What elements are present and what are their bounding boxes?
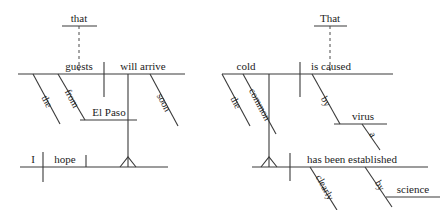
right-word-science: science — [397, 183, 429, 195]
left-word-el-paso: El Paso — [92, 106, 126, 118]
left-word-soon: soon — [155, 91, 174, 113]
right-diagram-group: That cold is caused the common by virus … — [222, 12, 440, 210]
right-word-clearly: clearly — [314, 173, 336, 202]
left-word-guests: guests — [65, 60, 93, 72]
left-word-from: from — [63, 87, 82, 110]
right-word-by-agent: by — [319, 94, 333, 108]
left-word-i: I — [31, 153, 35, 165]
right-word-the: the — [228, 94, 244, 110]
diagram-canvas: that guests will arrive the from El Paso… — [0, 0, 444, 210]
right-word-virus: virus — [352, 110, 374, 122]
right-word-is-caused: is caused — [311, 60, 352, 72]
left-diagram-group: that guests will arrive the from El Paso… — [18, 12, 185, 182]
right-word-a: a — [367, 130, 379, 140]
right-word-cold: cold — [237, 60, 256, 72]
right-word-That: That — [320, 12, 340, 24]
left-word-that: that — [71, 12, 88, 24]
right-word-by-prep: by — [373, 178, 387, 192]
left-word-will-arrive: will arrive — [120, 60, 166, 72]
sentence-diagram-svg: that guests will arrive the from El Paso… — [0, 0, 444, 210]
right-word-has-been-established: has been established — [307, 153, 397, 165]
left-word-the: the — [39, 93, 55, 109]
left-word-hope: hope — [54, 153, 76, 165]
